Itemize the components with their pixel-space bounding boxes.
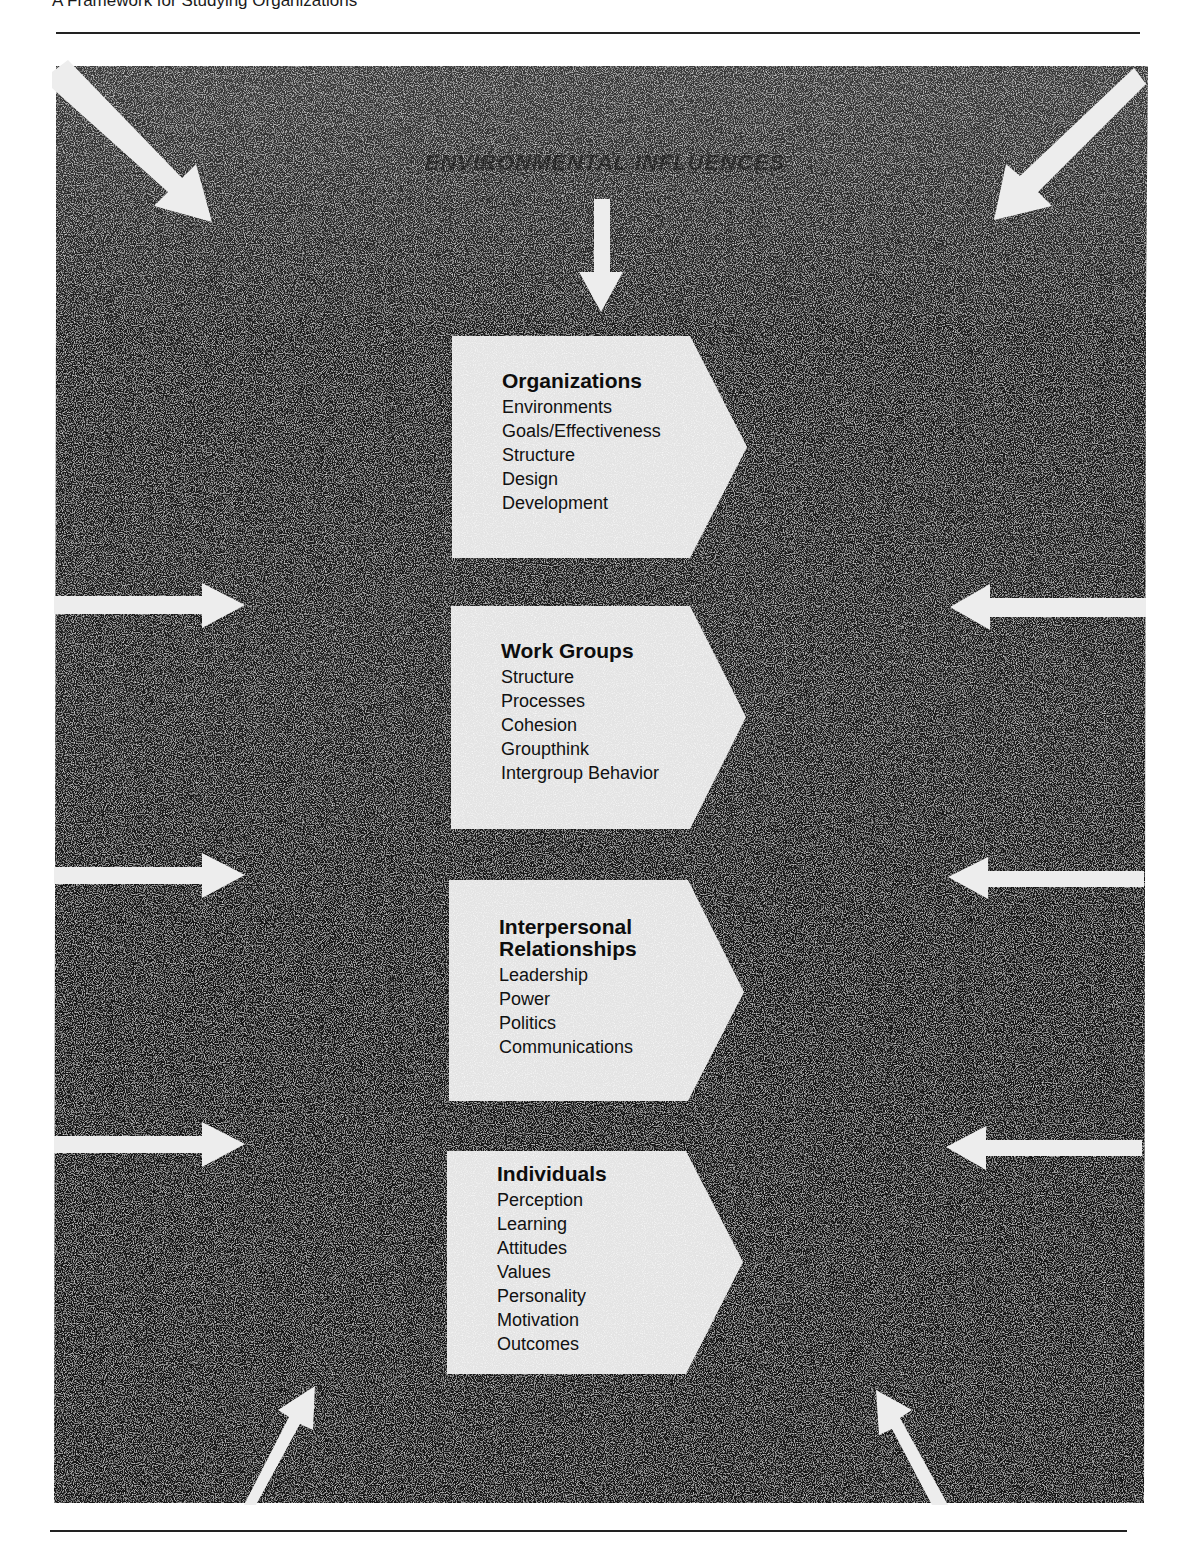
box-title: Organizations [502, 370, 661, 392]
box-title: Individuals [497, 1163, 607, 1185]
list-item: Processes [501, 689, 659, 713]
diagram-title: ENVIRONMENTAL INFLUENCES [325, 150, 885, 176]
list-item: Perception [497, 1188, 607, 1212]
list-item: Development [502, 491, 661, 515]
list-item: Structure [502, 443, 661, 467]
list-item: Power [499, 987, 637, 1011]
box-organizations: Organizations Environments Goals/Effecti… [452, 336, 747, 558]
list-item: Personality [497, 1284, 607, 1308]
list-item: Values [497, 1260, 607, 1284]
box-work-groups: Work Groups Structure Processes Cohesion… [451, 606, 746, 829]
box-title: Work Groups [501, 640, 659, 662]
list-item: Leadership [499, 963, 637, 987]
list-item: Groupthink [501, 737, 659, 761]
list-item: Communications [499, 1035, 637, 1059]
list-item: Goals/Effectiveness [502, 419, 661, 443]
box-interpersonal-relationships: Interpersonal Relationships Leadership P… [449, 880, 744, 1101]
list-item: Design [502, 467, 661, 491]
list-item: Learning [497, 1212, 607, 1236]
list-item: Motivation [497, 1308, 607, 1332]
list-item: Cohesion [501, 713, 659, 737]
list-item: Structure [501, 665, 659, 689]
list-item: Intergroup Behavior [501, 761, 659, 785]
box-individuals: Individuals Perception Learning Attitude… [447, 1151, 743, 1374]
diagram-panel: ENVIRONMENTAL INFLUENCES Organizations E… [0, 0, 1190, 1554]
list-item: Attitudes [497, 1236, 607, 1260]
box-title-line2: Relationships [499, 937, 637, 960]
bottom-rule [50, 1530, 1127, 1532]
box-title-line1: Interpersonal [499, 915, 632, 938]
list-item: Environments [502, 395, 661, 419]
box-title: Interpersonal Relationships [499, 916, 637, 960]
list-item: Politics [499, 1011, 637, 1035]
list-item: Outcomes [497, 1332, 607, 1356]
